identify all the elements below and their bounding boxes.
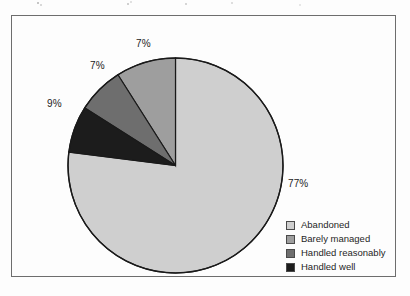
- slice-label-barely-managed: 9%: [47, 98, 62, 109]
- legend-item-label: Handled reasonably: [301, 246, 386, 260]
- scan-noise-artifact: [0, 0, 410, 13]
- legend-item-label: Barely managed: [301, 232, 370, 246]
- legend-swatch-icon: [286, 221, 295, 230]
- slice-label-handled-reasonably: 7%: [90, 60, 105, 71]
- chart-legend: AbandonedBarely managedHandled reasonabl…: [286, 218, 404, 274]
- plot-frame-border: 7% 7% 9% 77% AbandonedBarely managedHand…: [11, 15, 396, 277]
- legend-swatch-icon: [286, 249, 295, 258]
- legend-item-label: Handled well: [301, 260, 355, 274]
- legend-item-label: Abandoned: [301, 218, 350, 232]
- legend-item[interactable]: Abandoned: [286, 218, 404, 232]
- pie-slice-group: [68, 58, 283, 273]
- legend-item[interactable]: Handled reasonably: [286, 246, 404, 260]
- slice-label-abandoned: 77%: [288, 178, 308, 189]
- slice-label-handled-well: 7%: [136, 38, 151, 49]
- pie-chart: [67, 57, 284, 274]
- legend-swatch-icon: [286, 263, 295, 272]
- legend-swatch-icon: [286, 235, 295, 244]
- pie-svg: [67, 57, 284, 274]
- legend-item[interactable]: Barely managed: [286, 232, 404, 246]
- chart-page: 7% 7% 9% 77% AbandonedBarely managedHand…: [0, 0, 410, 296]
- legend-item[interactable]: Handled well: [286, 260, 404, 274]
